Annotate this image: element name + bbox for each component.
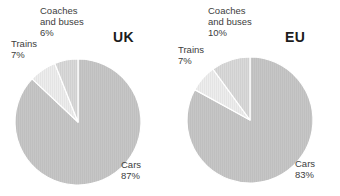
slice-value-uk-coaches-and-buses: 6% (40, 27, 84, 38)
pie-chart-uk (0, 0, 170, 196)
slice-label-uk-coaches-line2: and buses (40, 16, 84, 27)
slice-value-eu-trains: 7% (178, 55, 204, 66)
slice-label-eu-coaches-and-buses: Coaches and buses 10% (208, 5, 252, 39)
pie-chart-figure: UK Coaches and buses 6% Trains 7% Cars 8… (0, 0, 340, 196)
slice-label-eu-coaches-line2: and buses (208, 16, 252, 27)
slice-label-uk-coaches-line1: Coaches (40, 5, 78, 16)
slice-value-eu-coaches-and-buses: 10% (208, 27, 252, 38)
slice-label-uk-coaches-and-buses: Coaches and buses 6% (40, 5, 84, 39)
chart-panel-eu: EU Coaches and buses 10% Trains 7% Cars … (170, 0, 340, 196)
slice-value-uk-cars: 87% (121, 170, 141, 181)
slice-label-uk-cars: Cars 87% (121, 159, 141, 181)
slice-label-eu-cars-name: Cars (295, 158, 315, 169)
slice-label-uk-trains-name: Trains (11, 38, 37, 49)
slice-value-eu-cars: 83% (295, 169, 315, 180)
slice-label-eu-cars: Cars 83% (295, 158, 315, 180)
slice-label-eu-trains-name: Trains (178, 44, 204, 55)
slice-label-eu-trains: Trains 7% (178, 44, 204, 66)
chart-title-uk: UK (113, 29, 134, 45)
slice-value-uk-trains: 7% (11, 49, 37, 60)
chart-title-eu: EU (285, 29, 305, 45)
slice-label-uk-trains: Trains 7% (11, 38, 37, 60)
slice-label-eu-coaches-line1: Coaches (208, 5, 246, 16)
slice-label-uk-cars-name: Cars (121, 159, 141, 170)
chart-panel-uk: UK Coaches and buses 6% Trains 7% Cars 8… (0, 0, 170, 196)
